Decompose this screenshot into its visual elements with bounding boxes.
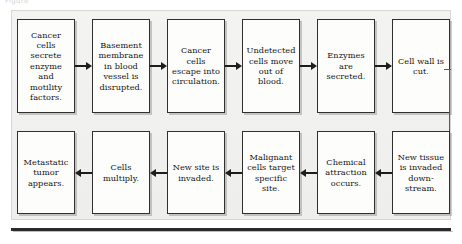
arrow-head [161, 62, 167, 70]
arrow-step-1-to-step-2 [75, 61, 92, 71]
arrow-step-9-to-step-10 [225, 168, 242, 178]
flowchart-figure: Figure Cancer cells secrete enzyme and m… [0, 0, 462, 244]
caption-fragment: Figure [5, 0, 29, 5]
arrow-shaft [231, 172, 242, 174]
frame-background [12, 11, 450, 219]
arrow-step-8-to-step-9 [300, 168, 317, 178]
arrow-head [236, 62, 242, 70]
process-box-label: Cells multiply. [96, 162, 146, 183]
arrow-step-11-to-step-12 [75, 168, 92, 178]
arrow-shaft [150, 65, 161, 67]
arrow-shaft [81, 172, 92, 174]
arrow-shaft [375, 65, 386, 67]
process-box-step-7[interactable]: New tissue is invaded down-stream. [392, 131, 450, 214]
arrow-step-10-to-step-11 [150, 168, 167, 178]
process-box-label: Malignant cells target specific site. [246, 152, 296, 194]
arrow-step-3-to-step-4 [225, 61, 242, 71]
arrow-shaft [75, 65, 86, 67]
arrow-head [311, 62, 317, 70]
figure-frame [11, 10, 451, 220]
arrow-step-2-to-step-3 [150, 61, 167, 71]
process-box-step-3[interactable]: Cancer cells escape into circulation. [167, 19, 225, 113]
process-box-label: Metastatic tumor appears. [21, 157, 71, 188]
process-box-label: Cancer cells escape into circulation. [171, 45, 221, 87]
arrow-step-7-to-step-8 [375, 168, 392, 178]
arrow-step-5-to-step-6 [375, 61, 392, 71]
arrow-shaft [225, 65, 236, 67]
arrow-shaft [156, 172, 167, 174]
arrow-shaft [300, 65, 311, 67]
process-box-label: Undetected cells move out of blood. [246, 45, 296, 87]
bottom-rule [11, 228, 451, 231]
arrow-shaft [381, 172, 392, 174]
process-box-step-8[interactable]: Chemical attraction occurs. [317, 131, 375, 214]
process-box-step-10[interactable]: New site is invaded. [167, 131, 225, 214]
process-box-step-2[interactable]: Basement membrane in blood vessel is dis… [92, 19, 150, 113]
process-box-label: Chemical attraction occurs. [321, 157, 371, 188]
arrow-shaft [306, 172, 317, 174]
process-box-step-12[interactable]: Metastatic tumor appears. [17, 131, 75, 214]
process-box-step-5[interactable]: Enzymes are secreted. [317, 19, 375, 113]
process-box-step-4[interactable]: Undetected cells move out of blood. [242, 19, 300, 113]
arrow-head [86, 62, 92, 70]
arrow-step-4-to-step-5 [300, 61, 317, 71]
process-box-label: New tissue is invaded down-stream. [396, 152, 446, 194]
process-box-step-9[interactable]: Malignant cells target specific site. [242, 131, 300, 214]
bottom-rule-shadow [13, 231, 453, 232]
process-box-step-1[interactable]: Cancer cells secrete enzyme and motility… [17, 19, 75, 113]
process-box-label: Cancer cells secrete enzyme and motility… [21, 30, 71, 103]
process-box-label: Cell wall is cut. [396, 56, 446, 77]
process-box-label: New site is invaded. [171, 162, 221, 183]
process-box-label: Basement membrane in blood vessel is dis… [96, 40, 146, 92]
process-box-step-11[interactable]: Cells multiply. [92, 131, 150, 214]
arrow-head [386, 62, 392, 70]
process-box-label: Enzymes are secreted. [321, 50, 371, 81]
process-box-step-6[interactable]: Cell wall is cut. [392, 19, 450, 113]
